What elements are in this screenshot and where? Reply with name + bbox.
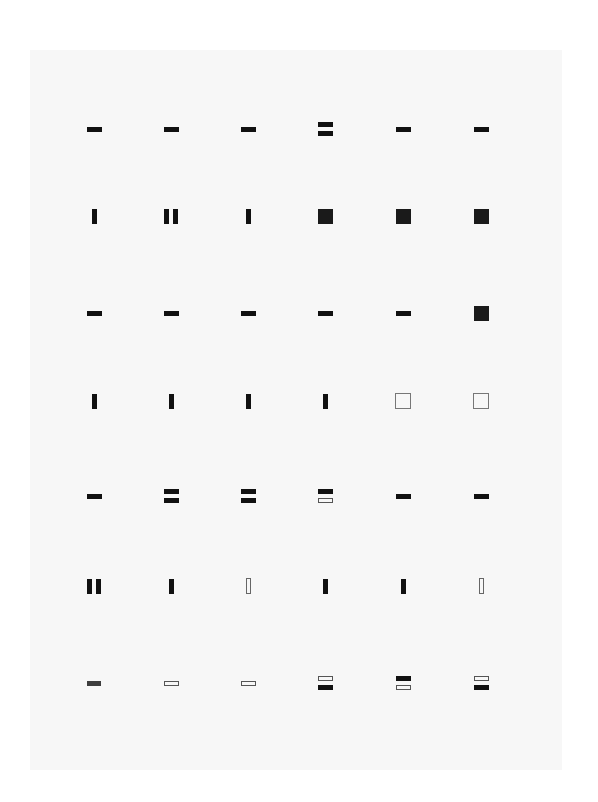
grid-cell-r4-c3 (228, 381, 268, 421)
grid-cell-r2-c4 (305, 196, 345, 236)
horizontal-bar-icon (318, 122, 333, 127)
grid-cell-r6-c5 (383, 566, 423, 606)
vertical-bar-icon (323, 394, 328, 409)
horizontal-bar-icon (474, 127, 489, 132)
grid-cell-r4-c5 (383, 381, 423, 421)
grid-cell-r1-c1 (74, 109, 114, 149)
vertical-bar-icon (96, 579, 101, 594)
grid-cell-r5-c5 (383, 476, 423, 516)
horizontal-bar-icon (241, 311, 256, 316)
vertical-bar-icon (246, 394, 251, 409)
grid-cell-r6-c2 (151, 566, 191, 606)
horizontal-bar-icon (87, 494, 102, 499)
vertical-bar-icon (92, 209, 97, 224)
grid-cell-r2-c6 (461, 196, 501, 236)
grid-cell-r5-c4 (305, 476, 345, 516)
filled-square-icon (396, 209, 411, 224)
vertical-bar-icon (323, 579, 328, 594)
horizontal-bar-icon (318, 685, 333, 690)
horizontal-bar-icon (87, 311, 102, 316)
horizontal-bar-icon (396, 494, 411, 499)
horizontal-bar-icon (241, 498, 256, 503)
vertical-bar-icon (173, 209, 178, 224)
horizontal-bar-icon (164, 498, 179, 503)
vertical-bar-icon (92, 394, 97, 409)
grid-cell-r5-c6 (461, 476, 501, 516)
grid-cell-r1-c5 (383, 109, 423, 149)
grid-cell-r1-c4 (305, 109, 345, 149)
gray-horizontal-bar-icon (87, 681, 101, 686)
grid-cell-r7-c4 (305, 663, 345, 703)
vertical-bar-icon (169, 394, 174, 409)
grid-cell-r4-c1 (74, 381, 114, 421)
horizontal-bar-icon (474, 685, 489, 690)
grid-cell-r7-c2 (151, 663, 191, 703)
horizontal-bar-icon (241, 127, 256, 132)
grid-cell-r6-c3 (228, 566, 268, 606)
horizontal-bar-icon (474, 494, 489, 499)
grid-cell-r5-c2 (151, 476, 191, 516)
outline-horizontal-bar-icon (164, 681, 179, 686)
outline-horizontal-bar-icon (396, 685, 411, 690)
grid-cell-r2-c1 (74, 196, 114, 236)
grid-cell-r3-c4 (305, 293, 345, 333)
grid-cell-r7-c6 (461, 663, 501, 703)
horizontal-bar-icon (396, 676, 411, 681)
grid-cell-r1-c6 (461, 109, 501, 149)
horizontal-bar-icon (318, 131, 333, 136)
grid-cell-r3-c5 (383, 293, 423, 333)
horizontal-bar-icon (164, 127, 179, 132)
grid-cell-r6-c1 (74, 566, 114, 606)
glyph-grid (0, 0, 598, 802)
grid-cell-r7-c3 (228, 663, 268, 703)
grid-cell-r4-c4 (305, 381, 345, 421)
grid-cell-r4-c2 (151, 381, 191, 421)
vertical-bar-icon (169, 579, 174, 594)
grid-cell-r6-c6 (461, 566, 501, 606)
horizontal-bar-icon (318, 311, 333, 316)
horizontal-bar-icon (318, 489, 333, 494)
grid-cell-r3-c1 (74, 293, 114, 333)
grid-cell-r2-c2 (151, 196, 191, 236)
filled-square-icon (318, 209, 333, 224)
filled-square-icon (474, 306, 489, 321)
grid-cell-r2-c3 (228, 196, 268, 236)
vertical-bar-icon (401, 579, 406, 594)
horizontal-bar-icon (396, 311, 411, 316)
grid-cell-r7-c1 (74, 663, 114, 703)
vertical-bar-icon (246, 209, 251, 224)
outline-vertical-bar-icon (246, 578, 251, 594)
outline-horizontal-bar-icon (318, 676, 333, 681)
horizontal-bar-icon (241, 489, 256, 494)
horizontal-bar-icon (164, 489, 179, 494)
grid-cell-r6-c4 (305, 566, 345, 606)
horizontal-bar-icon (164, 311, 179, 316)
outline-horizontal-bar-icon (318, 498, 333, 503)
grid-cell-r5-c1 (74, 476, 114, 516)
filled-square-icon (474, 209, 489, 224)
outline-vertical-bar-icon (479, 578, 484, 594)
grid-cell-r1-c3 (228, 109, 268, 149)
vertical-bar-icon (87, 579, 92, 594)
outline-square-icon (395, 393, 411, 409)
grid-cell-r4-c6 (461, 381, 501, 421)
grid-cell-r5-c3 (228, 476, 268, 516)
grid-cell-r3-c2 (151, 293, 191, 333)
outline-horizontal-bar-icon (241, 681, 256, 686)
horizontal-bar-icon (87, 127, 102, 132)
horizontal-bar-icon (396, 127, 411, 132)
grid-cell-r2-c5 (383, 196, 423, 236)
outline-horizontal-bar-icon (474, 676, 489, 681)
grid-cell-r1-c2 (151, 109, 191, 149)
grid-cell-r3-c6 (461, 293, 501, 333)
grid-cell-r7-c5 (383, 663, 423, 703)
grid-cell-r3-c3 (228, 293, 268, 333)
outline-square-icon (473, 393, 489, 409)
vertical-bar-icon (164, 209, 169, 224)
